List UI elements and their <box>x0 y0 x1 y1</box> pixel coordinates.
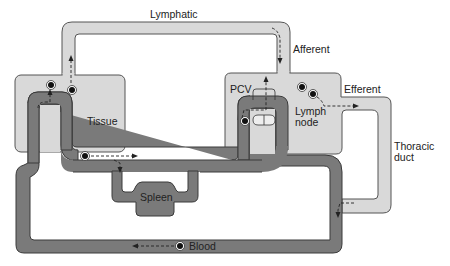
label-tissue: Tissue <box>87 116 118 127</box>
label-lymphatic: Lymphatic <box>150 9 197 20</box>
label-pcv: PCV <box>230 84 252 95</box>
lymphocyte-recirculation-diagram <box>0 0 450 266</box>
label-blood: Blood <box>189 241 216 252</box>
lymphatic-vessel <box>62 22 290 75</box>
label-efferent: Efferent <box>344 84 381 95</box>
label-afferent: Afferent <box>293 44 330 55</box>
label-spleen: Spleen <box>140 192 173 203</box>
label-thoracic-2: duct <box>394 152 414 163</box>
label-lymph-node-2: node <box>295 117 318 128</box>
